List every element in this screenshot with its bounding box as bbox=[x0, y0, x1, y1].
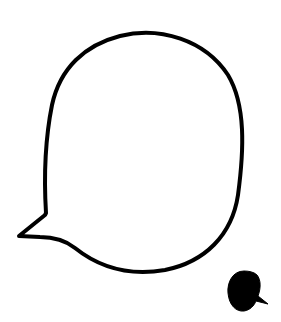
small-filled-speech-bubble-icon bbox=[228, 271, 268, 311]
illustration-canvas bbox=[0, 0, 281, 322]
large-speech-bubble-outline-icon bbox=[19, 33, 242, 272]
